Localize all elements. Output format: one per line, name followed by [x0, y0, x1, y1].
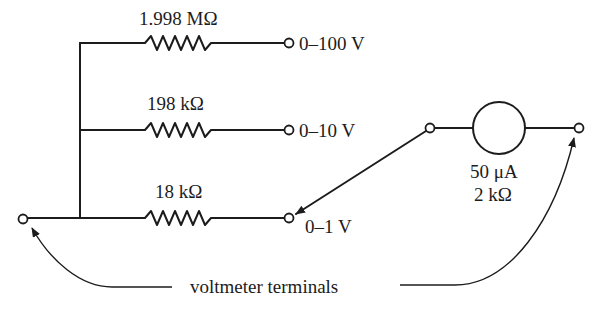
branch-100v: 1.998 MΩ 0–100 V — [80, 8, 365, 54]
range-label-10v: 0–10 V — [299, 120, 355, 141]
resistor-198k — [80, 123, 284, 137]
galvanometer-icon — [473, 102, 525, 154]
branch-10v: 198 kΩ 0–10 V — [80, 93, 355, 141]
meter-resistance-label: 2 kΩ — [474, 184, 512, 205]
range-label-1v: 0–1 V — [305, 216, 352, 237]
left-voltmeter-terminal[interactable] — [19, 215, 28, 224]
resistor-1998M — [80, 36, 284, 50]
right-voltmeter-terminal[interactable] — [575, 124, 584, 133]
terminal-10v[interactable] — [285, 126, 294, 135]
resistor-label-198k: 198 kΩ — [147, 93, 204, 114]
resistor-18k — [28, 211, 284, 225]
meter-current-label: 50 μA — [470, 161, 518, 182]
terminal-1v[interactable] — [285, 214, 294, 223]
range-label-100v: 0–100 V — [299, 33, 365, 54]
caption-voltmeter-terminals: voltmeter terminals — [190, 276, 338, 297]
caption-leader-left — [32, 228, 172, 287]
resistor-label-18k: 18 kΩ — [155, 181, 202, 202]
resistor-label-1998M: 1.998 MΩ — [139, 8, 218, 29]
voltmeter-circuit-diagram: 1.998 MΩ 0–100 V 198 kΩ 0–10 V 18 kΩ 0–1… — [0, 0, 593, 310]
terminal-100v[interactable] — [285, 39, 294, 48]
selector-switch-arrow[interactable] — [296, 131, 426, 214]
